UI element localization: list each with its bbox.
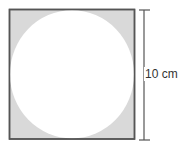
inscribed-circle <box>10 10 134 138</box>
dimension-label: 10 cm <box>144 67 178 81</box>
